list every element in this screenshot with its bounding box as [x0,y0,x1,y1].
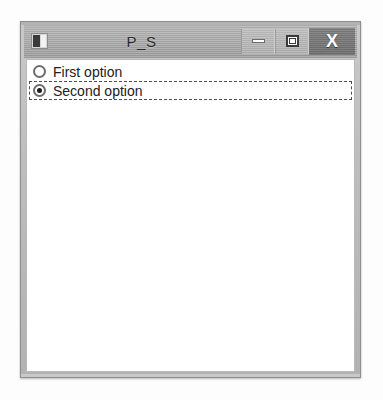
window-title: P_S [48,33,241,50]
radio-indicator-selected[interactable] [33,84,46,97]
client-area: First option Second option [26,59,355,372]
app-window-icon [31,33,48,49]
maximize-icon [286,35,299,47]
radio-option-first[interactable]: First option [29,62,352,81]
radio-label-first: First option [53,65,122,79]
radio-option-second[interactable]: Second option [29,81,352,100]
minimize-button[interactable] [241,29,275,54]
title-bar[interactable]: P_S X [24,25,357,58]
close-icon: X [326,32,338,50]
close-button[interactable]: X [309,28,355,55]
minimize-icon [252,39,265,43]
radio-indicator-unselected[interactable] [33,65,46,78]
maximize-button[interactable] [275,29,309,54]
application-window: P_S X First option Second option [20,21,361,378]
radio-label-second: Second option [53,84,143,98]
